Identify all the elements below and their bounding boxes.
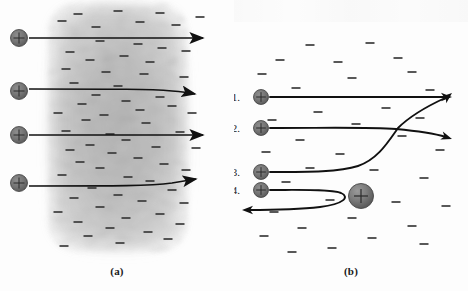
alpha-trajectory	[270, 128, 446, 137]
alpha-scattering-figure: (a)	[0, 0, 468, 291]
nucleus	[349, 184, 374, 209]
alpha-particles-b	[254, 90, 269, 198]
track-number-label: 4.	[234, 184, 240, 196]
track-number-label: 1.	[234, 91, 240, 103]
alpha-particle-icon	[11, 83, 28, 100]
alpha-particles-a	[11, 30, 28, 192]
trajectory-arrowhead	[441, 90, 455, 104]
panel-b-rutherford-model: 1.2.3.4. (b)	[234, 0, 468, 291]
alpha-particle-icon	[11, 30, 28, 47]
track-number-labels: 1.2.3.4.	[234, 91, 240, 196]
alpha-particle-icon	[11, 175, 28, 192]
track-number-label: 2.	[234, 122, 240, 134]
alpha-particle-icon	[254, 121, 269, 136]
panel-a-canvas	[0, 0, 234, 291]
alpha-particle-icon	[11, 127, 28, 144]
panel-a-caption: (a)	[0, 265, 234, 277]
alpha-trajectories-b	[248, 97, 447, 210]
trajectory-arrowhead	[440, 132, 453, 143]
positive-charge-cloud	[48, 2, 188, 252]
alpha-particle-icon	[254, 165, 269, 180]
electron-minus-signs-b	[258, 43, 451, 252]
panel-a-thomson-model: (a)	[0, 0, 234, 291]
track-number-label: 3.	[234, 166, 240, 178]
panel-b-canvas: 1.2.3.4.	[234, 0, 468, 291]
alpha-particle-icon	[254, 90, 269, 105]
alpha-trajectory	[270, 98, 445, 172]
alpha-particle-icon	[254, 183, 269, 198]
panel-b-caption: (b)	[234, 265, 468, 277]
